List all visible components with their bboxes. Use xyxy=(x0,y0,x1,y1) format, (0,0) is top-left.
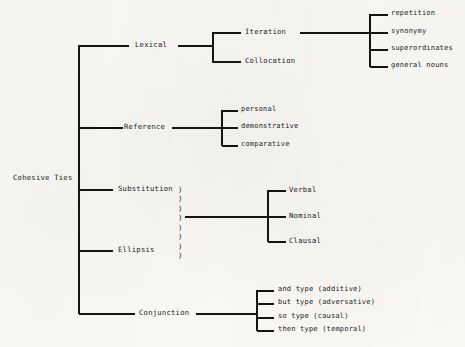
leaf-label-superordinates: superordinates xyxy=(391,44,453,53)
leaf-label-synonymy: synonymy xyxy=(391,27,426,36)
bracket-lexical-vertical xyxy=(212,32,214,63)
fan-tick-clausal xyxy=(268,241,286,243)
connector-conjunction-to-fan xyxy=(196,313,257,315)
node-label-reference: Reference xyxy=(124,122,165,131)
diagram-canvas: Cohesive Ties Lexical Reference Substitu… xyxy=(0,0,465,347)
leaf-label-nominal: Nominal xyxy=(289,211,321,220)
leaf-label-but-type-adversative: but type (adversative) xyxy=(278,298,375,307)
node-label-lexical: Lexical xyxy=(135,40,167,49)
leaf-label-general-nouns: general nouns xyxy=(391,61,448,70)
fan-tick-temporal xyxy=(257,330,274,332)
connector-lexical-to-bracket xyxy=(178,45,214,47)
bracket-arm-collocation xyxy=(213,61,241,63)
fan-tick-comparative xyxy=(222,145,238,147)
branch-arm-reference xyxy=(79,127,123,129)
fan-tick-personal xyxy=(222,110,238,112)
fan-tick-nominal xyxy=(268,216,286,218)
fan-tick-synonymy xyxy=(370,32,388,34)
connector-iteration-to-fan xyxy=(300,32,371,34)
fan-conjunction-vertical xyxy=(256,290,258,331)
branch-arm-substitution xyxy=(79,189,113,191)
fan-tick-verbal xyxy=(268,190,286,192)
leaf-label-and-type-additive: and type (additive) xyxy=(278,285,362,294)
trunk-vertical-line xyxy=(78,45,80,314)
fan-tick-superordinates xyxy=(370,49,388,51)
fan-iteration-vertical xyxy=(369,14,371,67)
root-label-cohesive-ties: Cohesive Ties xyxy=(13,173,73,182)
leaf-label-comparative: comparative xyxy=(241,140,290,149)
leaf-label-clausal: Clausal xyxy=(289,236,321,245)
node-label-conjunction: Conjunction xyxy=(139,308,189,317)
leaf-label-personal: personal xyxy=(241,105,276,114)
leaf-label-repetition: repetition xyxy=(391,9,435,18)
branch-arm-lexical xyxy=(79,45,129,47)
leaf-label-so-type-causal: so type (causal) xyxy=(278,312,349,321)
fan-tick-causal xyxy=(257,317,274,319)
node-label-collocation: Collocation xyxy=(245,56,295,65)
node-label-ellipsis: Ellipsis xyxy=(118,245,155,254)
fan-tick-general-nouns xyxy=(370,66,388,68)
branch-arm-ellipsis xyxy=(79,250,113,252)
bracket-arm-iteration xyxy=(213,32,241,34)
typed-brace-substitution-ellipsis: ) ) ) ) ) ) ) ) xyxy=(178,185,182,261)
fan-tick-adversative xyxy=(257,303,274,305)
branch-arm-conjunction xyxy=(79,313,135,315)
fan-tick-demonstrative xyxy=(222,127,238,129)
connector-brace-to-fan xyxy=(185,216,268,218)
fan-tick-additive xyxy=(257,290,274,292)
fan-tick-repetition xyxy=(370,14,388,16)
leaf-label-demonstrative: demonstrative xyxy=(241,122,298,131)
leaf-label-then-type-temporal: then type (temporal) xyxy=(278,325,366,334)
node-label-substitution: Substitution xyxy=(118,184,173,193)
node-label-iteration: Iteration xyxy=(245,27,286,36)
connector-reference-to-fan xyxy=(172,127,222,129)
leaf-label-verbal: Verbal xyxy=(289,185,316,194)
